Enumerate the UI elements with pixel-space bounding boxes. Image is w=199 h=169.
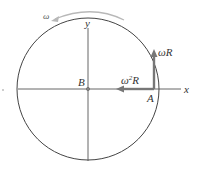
- velocity-arrowhead-icon: [151, 49, 158, 57]
- rigid-body-diagram: ω y x B A ωR ω2R: [0, 0, 199, 169]
- omega-label: ω: [43, 11, 49, 21]
- y-axis-label: y: [84, 17, 90, 29]
- velocity-label: ωR: [158, 46, 173, 58]
- left-tick-dot: [2, 89, 3, 90]
- x-axis-label: x: [183, 83, 189, 95]
- acceleration-label: ω2R: [121, 74, 139, 86]
- center-label-B: B: [78, 76, 85, 88]
- acceleration-arrowhead-icon: [116, 86, 124, 93]
- point-label-A: A: [146, 92, 154, 104]
- rotation-arrowhead-icon: [51, 16, 59, 22]
